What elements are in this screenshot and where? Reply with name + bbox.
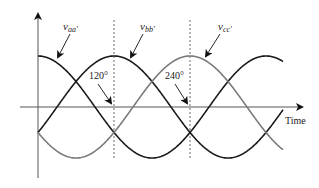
pointer-240 [175, 84, 187, 103]
label-vcc: vcc' [218, 20, 232, 34]
pointer-120 [98, 84, 111, 103]
pointer-vbb [131, 34, 143, 57]
pointer-vcc [206, 34, 220, 56]
pointer-vaa [58, 34, 70, 57]
annotation-120: 120° [89, 70, 108, 81]
label-vaa: vaa' [63, 20, 78, 34]
annotation-240: 240° [165, 70, 184, 81]
three-phase-diagram: vaa' vbb' vcc' 120° 240° Time [0, 0, 319, 188]
time-axis-label: Time [285, 115, 306, 126]
label-vbb: vbb' [140, 20, 155, 34]
